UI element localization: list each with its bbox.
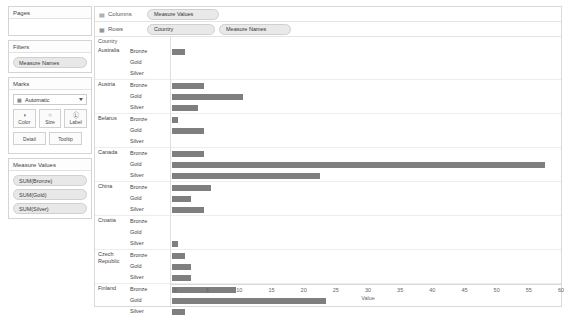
country-label: Austria: [95, 80, 128, 113]
measure-name-column: BronzeGoldSilver: [128, 114, 170, 147]
rows-pill-country[interactable]: Country: [147, 24, 215, 35]
columns-pill-measure-values[interactable]: Measure Values: [147, 9, 219, 20]
row-header-title: Country: [95, 37, 170, 46]
bar-row: [171, 102, 561, 113]
row-header-group[interactable]: CanadaBronzeGoldSilver: [95, 147, 170, 181]
bar-row: [171, 227, 561, 238]
row-header-group[interactable]: FinlandBronzeGoldSilver: [95, 283, 170, 317]
country-label: Croatia: [95, 216, 128, 249]
measure-name-label: Gold: [128, 57, 170, 68]
row-header-group[interactable]: Czech RepublicBronzeGoldSilver: [95, 249, 170, 283]
measure-name-column: BronzeGoldSilver: [128, 148, 170, 181]
row-header-group[interactable]: CroatiaBronzeGoldSilver: [95, 215, 170, 249]
marks-detail-button[interactable]: Detail: [13, 132, 46, 145]
bar-australia-bronze[interactable]: [172, 49, 185, 55]
bar-czech-republic-silver[interactable]: [172, 275, 191, 281]
measure-pill-bronze[interactable]: SUM(Bronze): [13, 175, 87, 186]
bar-row: [171, 261, 561, 272]
bar-canada-bronze[interactable]: [172, 151, 204, 157]
bar-mark-icon: ▩: [17, 97, 22, 103]
marks-buttons-row-secondary: Detail Tooltip: [13, 132, 87, 145]
measure-values-card: Measure Values SUM(Bronze) SUM(Gold) SUM…: [8, 158, 92, 219]
bar-row: [171, 136, 561, 147]
filter-pill-measure-names[interactable]: Measure Names: [13, 57, 87, 68]
bar-row: [171, 114, 561, 125]
bar-row: [171, 306, 561, 317]
x-axis-tick: 15: [268, 287, 274, 293]
bar-croatia-silver[interactable]: [172, 241, 178, 247]
marks-size-button[interactable]: ○ Size: [39, 109, 62, 128]
measure-values-list[interactable]: SUM(Bronze) SUM(Gold) SUM(Silver): [9, 171, 91, 218]
plot-top-padding: [171, 37, 561, 46]
bar-canada-silver[interactable]: [172, 173, 320, 179]
bar-row: [171, 216, 561, 227]
bar-china-gold[interactable]: [172, 196, 191, 202]
measure-name-label: Bronze: [128, 216, 170, 227]
bar-austria-silver[interactable]: [172, 105, 198, 111]
row-header-group[interactable]: AustriaBronzeGoldSilver: [95, 79, 170, 113]
bar-austria-bronze[interactable]: [172, 83, 204, 89]
row-header-group[interactable]: AustraliaBronzeGoldSilver: [95, 46, 170, 79]
columns-shelf[interactable]: ▤ Columns Measure Values: [95, 7, 561, 22]
measure-pill-silver[interactable]: SUM(Silver): [13, 203, 87, 214]
bar-group: [171, 249, 561, 283]
rows-shelf-dropzone[interactable]: Country Measure Names: [147, 22, 557, 37]
bar-czech-republic-bronze[interactable]: [172, 253, 185, 259]
row-header-body: AustraliaBronzeGoldSilverAustriaBronzeGo…: [95, 46, 170, 317]
bar-row: [171, 91, 561, 102]
marks-tooltip-button[interactable]: Tooltip: [49, 132, 82, 145]
measure-name-label: Gold: [128, 159, 170, 170]
bar-row: [171, 46, 561, 57]
bar-row: [171, 125, 561, 136]
bar-china-silver[interactable]: [172, 207, 204, 213]
measure-name-label: Bronze: [128, 182, 170, 193]
x-axis-tick: 30: [365, 287, 371, 293]
filters-shelf-dropzone[interactable]: Measure Names: [9, 53, 91, 72]
measure-name-column: BronzeGoldSilver: [128, 216, 170, 249]
row-header-group[interactable]: BelarusBronzeGoldSilver: [95, 113, 170, 147]
bar-canada-gold[interactable]: [172, 162, 545, 168]
x-axis-tick: 45: [461, 287, 467, 293]
row-header-group[interactable]: ChinaBronzeGoldSilver: [95, 181, 170, 215]
bar-austria-gold[interactable]: [172, 94, 243, 100]
bar-belarus-bronze[interactable]: [172, 117, 178, 123]
measure-name-label: Gold: [128, 125, 170, 136]
x-axis-tick: 60: [558, 287, 564, 293]
bar-group: [171, 147, 561, 181]
bar-czech-republic-gold[interactable]: [172, 264, 191, 270]
pages-card-title: Pages: [9, 7, 91, 19]
measure-name-label: Silver: [128, 170, 170, 181]
country-label: Finland: [95, 284, 128, 317]
columns-shelf-dropzone[interactable]: Measure Values: [147, 7, 557, 22]
tableau-worksheet-window: Pages Filters Measure Names Marks ▩ Auto…: [0, 0, 568, 321]
measure-pill-gold[interactable]: SUM(Gold): [13, 189, 87, 200]
bar-row: [171, 68, 561, 79]
x-axis-tick: 50: [494, 287, 500, 293]
bar-belarus-gold[interactable]: [172, 128, 204, 134]
plot-bars-container: [171, 46, 561, 317]
x-axis-title: Value: [361, 295, 375, 301]
bar-finland-silver[interactable]: [172, 309, 185, 315]
measure-name-label: Gold: [128, 227, 170, 238]
bar-row: [171, 250, 561, 261]
marks-label-button[interactable]: Ⓛ Label: [64, 109, 87, 128]
marks-card: Marks ▩ Automatic ◑ Color ○ Size: [8, 77, 92, 154]
bar-row: [171, 80, 561, 91]
bar-china-bronze[interactable]: [172, 185, 211, 191]
marks-card-body: ▩ Automatic ◑ Color ○ Size Ⓛ Labe: [9, 90, 91, 153]
x-axis-tick: 40: [429, 287, 435, 293]
bar-row: [171, 170, 561, 181]
measure-name-column: BronzeGoldSilver: [128, 80, 170, 113]
measure-name-label: Gold: [128, 193, 170, 204]
measure-name-label: Silver: [128, 136, 170, 147]
measure-name-label: Bronze: [128, 114, 170, 125]
mark-type-dropdown[interactable]: ▩ Automatic: [13, 94, 87, 105]
measure-name-column: BronzeGoldSilver: [128, 182, 170, 215]
visualization-area: Country AustraliaBronzeGoldSilverAustria…: [95, 37, 561, 306]
pages-shelf-dropzone[interactable]: [9, 19, 91, 35]
rows-pill-measure-names[interactable]: Measure Names: [219, 24, 291, 35]
rows-icon: ▦: [99, 26, 105, 33]
x-axis: 051015202530354045505560 Value: [171, 284, 561, 306]
rows-shelf[interactable]: ▦ Rows Country Measure Names: [95, 22, 561, 37]
marks-color-button[interactable]: ◑ Color: [13, 109, 36, 128]
